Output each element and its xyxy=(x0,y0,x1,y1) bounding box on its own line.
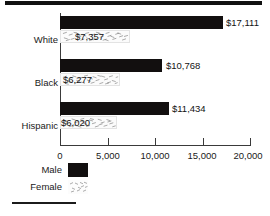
x-tick-label-10000: 10,000 xyxy=(140,150,169,161)
legend-item-female: Female xyxy=(0,180,150,196)
x-tick-label-0: 0 xyxy=(57,150,62,161)
category-label-white: White xyxy=(34,35,58,45)
hatch-pattern-icon xyxy=(68,180,88,194)
x-tick-label-5000: 5,000 xyxy=(96,150,120,161)
x-tick-0 xyxy=(60,138,61,146)
legend-item-male: Male xyxy=(0,163,150,179)
legend-label-male: Male xyxy=(0,164,62,176)
bottom-divider-rule xyxy=(12,202,76,204)
legend-swatch-male xyxy=(68,163,88,177)
chart-legend: Male Female xyxy=(0,163,150,199)
x-tick-5000 xyxy=(108,138,109,146)
category-label-black: Black xyxy=(35,78,58,88)
x-tick-10000 xyxy=(155,138,156,146)
x-tick-label-15000: 15,000 xyxy=(187,150,216,161)
top-divider-rule xyxy=(5,1,262,5)
value-label-female-black: $6,277 xyxy=(63,73,92,86)
x-tick-15000 xyxy=(203,138,204,146)
bar-male-white xyxy=(60,16,223,29)
x-tick-label-20000: 20,000 xyxy=(233,150,262,161)
legend-label-female: Female xyxy=(0,181,62,193)
value-label-female-hispanic: $6,020 xyxy=(61,116,90,129)
bar-male-hispanic xyxy=(60,102,169,115)
legend-swatch-female xyxy=(68,180,88,194)
value-label-male-black: $10,768 xyxy=(166,59,200,72)
bar-chart: White Black Hispanic $17,111 $7,357 $10,… xyxy=(0,0,270,216)
value-label-male-hispanic: $11,434 xyxy=(172,102,206,115)
value-label-female-white: $7,357 xyxy=(75,30,104,43)
plot-area: White Black Hispanic $17,111 $7,357 $10,… xyxy=(0,10,270,145)
value-label-male-white: $17,111 xyxy=(226,16,259,29)
x-tick-20000 xyxy=(250,138,251,146)
bar-male-black xyxy=(60,59,162,72)
category-label-hispanic: Hispanic xyxy=(22,121,58,131)
